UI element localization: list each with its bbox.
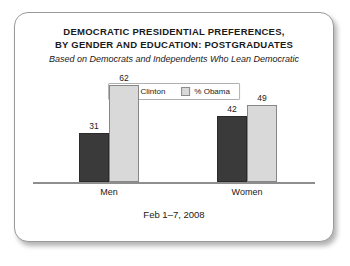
chart-plot-area: 31 62 Men 42 49 Women — [15, 13, 333, 241]
bar-group-men-bars: 31 62 — [79, 32, 139, 182]
bar-group-men: 31 62 Men — [79, 13, 139, 182]
bar-value-women-clinton: 42 — [218, 104, 246, 114]
bar-men-clinton: 31 — [79, 133, 109, 182]
x-axis-label-women: Women — [205, 187, 289, 197]
bar-value-men-clinton: 31 — [80, 121, 108, 131]
x-axis-baseline — [33, 182, 315, 184]
bar-group-women: 42 49 Women — [217, 13, 277, 182]
chart-footer-date: Feb 1–7, 2008 — [15, 209, 333, 220]
bar-women-clinton: 42 — [217, 116, 247, 182]
bar-women-obama: 49 — [247, 105, 277, 182]
bar-value-women-obama: 49 — [248, 93, 276, 103]
bar-value-men-obama: 62 — [110, 73, 138, 83]
chart-card: DEMOCRATIC PRESIDENTIAL PREFERENCES, BY … — [14, 12, 334, 242]
x-axis-label-men: Men — [67, 187, 151, 197]
bar-men-obama: 62 — [109, 85, 139, 182]
bar-group-women-bars: 42 49 — [217, 32, 277, 182]
